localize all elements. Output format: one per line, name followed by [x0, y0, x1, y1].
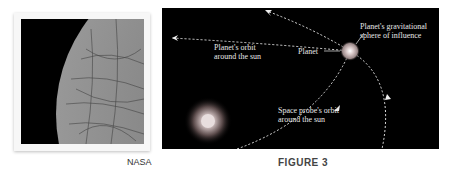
orbit-diagram: Planet's orbit around the sun Planet Pla… [162, 8, 439, 149]
photo-credit: NASA [127, 157, 152, 167]
photo-frame [14, 13, 150, 151]
sphere-of-influence-label: Planet's gravitational sphere of influen… [360, 22, 427, 40]
outer-orbit-arrow-icon [385, 94, 391, 100]
planet-orbit-label: Planet's orbit around the sun [214, 43, 261, 61]
outer-orbit-path [350, 51, 386, 149]
figure-caption: FIGURE 3 [278, 157, 328, 168]
probe-orbit-label: Space probe's orbit around the sun [278, 106, 339, 124]
planet-photo [21, 19, 144, 144]
planet-label: Planet [298, 47, 318, 56]
probe-outbound-path [267, 11, 350, 51]
probe-orbit-path [237, 51, 350, 149]
probe-outbound-arrow-icon [265, 10, 272, 16]
planet-icon [340, 41, 360, 61]
